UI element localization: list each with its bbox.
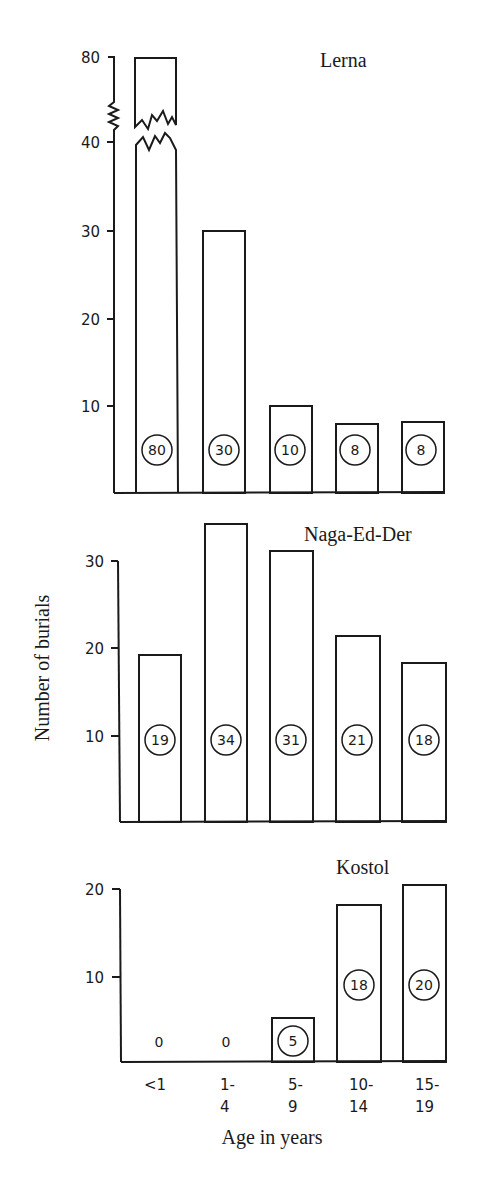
naga-bar-10-14 <box>336 636 380 822</box>
naga-bar-1-4 <box>205 524 247 822</box>
lerna-panel-title: Lerna <box>320 49 367 71</box>
naga-bar-5-9 <box>270 551 313 822</box>
kostol-tick-label: 10 <box>85 969 104 987</box>
category-label: 1- <box>220 1076 235 1094</box>
category-label: 10- <box>349 1076 374 1094</box>
x-category-labels: <1 1- 4 5- 9 10- 14 15- 19 <box>144 1076 440 1116</box>
naga-bar-label: 18 <box>415 732 433 748</box>
lerna-bar-label: 8 <box>351 442 360 458</box>
naga-tick-label: 20 <box>85 640 104 658</box>
kostol-panel-title: Kostol <box>336 856 390 878</box>
burials-by-age-figure: 80 40 30 20 10 Lerna 80 30 10 8 8 30 20 … <box>0 0 483 1185</box>
category-label: 19 <box>415 1098 434 1116</box>
lerna-tick-label: 40 <box>81 134 100 152</box>
lerna-text: 80 40 30 20 10 Lerna 80 30 10 8 8 <box>81 49 426 458</box>
naga-bar-label: 21 <box>348 732 366 748</box>
lerna-bar-lt1-lower <box>136 133 178 493</box>
lerna-bar-lt1-upper <box>135 58 176 129</box>
naga-panel-title: Naga-Ed-Der <box>304 523 412 546</box>
naga-tick-label: 30 <box>85 553 104 571</box>
lerna-tick-label: 80 <box>81 49 100 67</box>
category-label: 5- <box>288 1076 303 1094</box>
kostol-bar-15-19 <box>403 885 446 1062</box>
kostol-bar-label: 20 <box>415 977 433 993</box>
lerna-bar-label: 80 <box>148 442 166 458</box>
lerna-bar-label: 8 <box>417 442 426 458</box>
lerna-tick-label: 20 <box>81 311 100 329</box>
panel-naga-ed-der <box>111 524 447 822</box>
kostol-bar-label: 5 <box>289 1033 298 1049</box>
lerna-bar-label: 30 <box>215 442 233 458</box>
lerna-y-axis <box>108 57 118 493</box>
y-axis-title: Number of burials <box>31 594 53 741</box>
naga-bar-label: 19 <box>151 732 169 748</box>
panel-lerna <box>107 57 445 493</box>
naga-bar-label: 31 <box>282 732 300 748</box>
category-label: 9 <box>288 1098 298 1116</box>
naga-tick-label: 10 <box>85 728 104 746</box>
x-axis-title: Age in years <box>221 1126 322 1149</box>
category-label: <1 <box>144 1076 166 1094</box>
kostol-bar-label: 0 <box>222 1034 231 1050</box>
lerna-tick-label: 30 <box>81 223 100 241</box>
category-label: 15- <box>415 1076 440 1094</box>
kostol-y-axis <box>120 889 121 1062</box>
naga-bar-label: 34 <box>217 732 235 748</box>
kostol-bar-label: 0 <box>155 1034 164 1050</box>
category-label: 14 <box>349 1098 368 1116</box>
lerna-bar-label: 10 <box>281 442 299 458</box>
kostol-bar-label: 18 <box>350 977 368 993</box>
naga-y-axis <box>118 561 120 822</box>
lerna-tick-label: 10 <box>81 398 100 416</box>
kostol-tick-label: 20 <box>85 881 104 899</box>
category-label: 4 <box>220 1098 230 1116</box>
